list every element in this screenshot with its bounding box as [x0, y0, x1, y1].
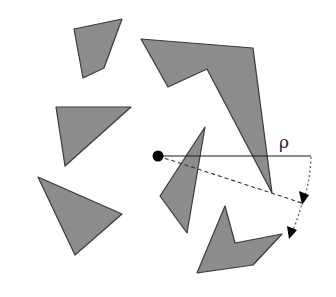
rho-label: ρ [279, 132, 289, 152]
obstacle-triangle-left [56, 107, 131, 166]
origin-point [153, 151, 164, 162]
obstacle-triangle-center [160, 127, 205, 233]
obstacle-quad-top-left [74, 19, 122, 78]
arrowhead-icon [287, 226, 297, 239]
obstacle-concave-bottom [197, 206, 282, 273]
obstacle-large-concave-top-right [141, 39, 272, 193]
obstacle-triangle-bottom-left [38, 177, 122, 255]
diagram-canvas: ρ [0, 0, 336, 297]
